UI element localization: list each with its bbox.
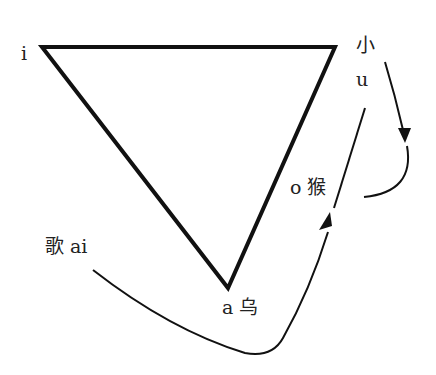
- label-u: u: [356, 70, 368, 89]
- u-to-o-line: [334, 108, 365, 208]
- label-a-wu: a 乌: [222, 298, 258, 317]
- arrowhead-down-icon: [398, 128, 411, 143]
- xiao-down-arrow: [385, 62, 403, 130]
- ge-to-o-curve: [93, 232, 328, 354]
- return-curve: [364, 146, 408, 197]
- label-xiao: 小: [356, 36, 375, 55]
- label-o-hou: o 猴: [290, 178, 326, 197]
- label-i: i: [21, 44, 27, 63]
- arrowhead-up-icon: [319, 212, 332, 230]
- vowel-diagram: i 小 u o 猴 歌 ai a 乌: [0, 0, 436, 375]
- label-ge-ai: 歌 ai: [45, 237, 87, 256]
- diagram-graphics: [0, 0, 436, 375]
